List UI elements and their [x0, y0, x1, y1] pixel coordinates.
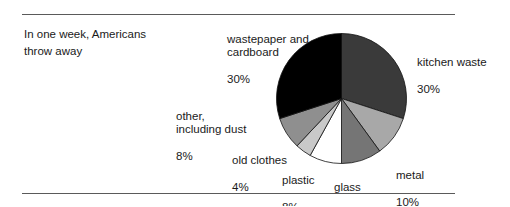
- pie-label-kitchen-waste: kitchen waste 30%: [417, 42, 509, 110]
- bottom-divider-rule: [22, 193, 455, 194]
- figure-caption: In one week, Americans throw away: [24, 26, 224, 60]
- pie-label-glass: glass 10%: [334, 167, 394, 206]
- pie-label-kitchen-waste-text: kitchen waste: [417, 56, 509, 70]
- pie-label-old-clothes-percent: 4%: [232, 181, 312, 195]
- figure-container: In one week, Americans throw away wastep…: [0, 0, 510, 206]
- pie-label-other-including-dust-percent: 8%: [176, 150, 276, 164]
- pie-label-metal-percent: 10%: [396, 196, 456, 207]
- pie-label-kitchen-waste-percent: 30%: [417, 83, 509, 97]
- pie-label-glass-text: glass: [334, 181, 394, 195]
- pie-label-other-including-dust: other, including dust 8%: [176, 96, 276, 177]
- pie-label-metal: metal 10%: [396, 155, 456, 206]
- pie-label-other-including-dust-text: other, including dust: [176, 110, 276, 137]
- pie-label-metal-text: metal: [396, 169, 456, 183]
- pie-label-wastepaper-and-cardboard: wastepaper and cardboard 30%: [227, 19, 337, 100]
- pie-label-wastepaper-and-cardboard-percent: 30%: [227, 73, 337, 87]
- pie-label-wastepaper-and-cardboard-text: wastepaper and cardboard: [227, 33, 337, 60]
- top-divider-rule: [22, 14, 455, 15]
